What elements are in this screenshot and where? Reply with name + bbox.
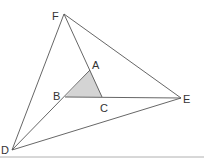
label-d: D [1,144,9,156]
label-c: C [100,102,108,114]
shaded-triangle-abc [65,70,102,97]
label-e: E [183,93,190,105]
geometry-diagram: F A B C E D [0,0,204,162]
label-b: B [53,90,60,102]
label-a: A [92,59,100,71]
label-f: F [52,10,59,22]
segment-be [65,97,181,98]
segment-fd [12,14,64,150]
